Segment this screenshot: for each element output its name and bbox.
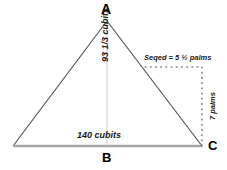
seqed-measurement-label: Seqed = 5 ½ palms bbox=[144, 54, 211, 62]
height-measurement-label: 93 1/3 cubits bbox=[101, 8, 110, 62]
base-measurement-label: 140 cubits bbox=[77, 131, 121, 140]
palms-measurement-label: 7 palms bbox=[209, 92, 217, 120]
vertex-label-b: B bbox=[102, 151, 111, 164]
pyramid-seqed-diagram: A B C 93 1/3 cubits 140 cubits Seqed = 5… bbox=[0, 0, 227, 170]
diagram-canvas bbox=[0, 0, 227, 170]
vertex-label-c: C bbox=[208, 139, 217, 152]
triangle-left-slope bbox=[13, 21, 107, 146]
triangle-right-slope bbox=[107, 21, 202, 146]
